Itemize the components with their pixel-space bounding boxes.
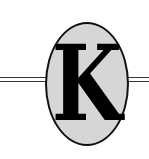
right-rule-bottom: [128, 81, 149, 82]
right-rule-top: [128, 77, 149, 78]
left-rule-bottom: [0, 81, 46, 82]
left-rule-top: [0, 77, 46, 78]
logo-letter: K: [54, 22, 120, 146]
